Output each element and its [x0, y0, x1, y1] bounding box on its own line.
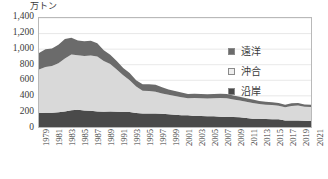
legend-label-distant-water: 遠洋 — [241, 46, 261, 57]
x-axis-tick-2001: 2001 — [185, 129, 194, 146]
x-axis-tick-1987: 1987 — [94, 129, 103, 146]
x-axis-tick-1993: 1993 — [133, 129, 142, 146]
x-axis-tick-1989: 1989 — [107, 129, 116, 146]
legend-item-coastal: 沿岸 — [228, 81, 304, 101]
x-axis-tick-2009: 2009 — [237, 129, 246, 146]
x-axis-tick-1979: 1979 — [42, 129, 51, 146]
x-axis-tick-1983: 1983 — [68, 129, 77, 146]
legend-item-offshore: 沖合 — [228, 61, 304, 81]
legend-swatch-distant-water — [228, 48, 235, 55]
fishery-production-area-chart: 万トン 02004006008001,0001,2001,400 1979198… — [0, 0, 328, 179]
legend-label-coastal: 沿岸 — [241, 86, 261, 97]
y-axis-tick-1400: 1,400 — [13, 12, 34, 22]
legend-swatch-offshore — [228, 68, 235, 75]
x-axis-tick-2003: 2003 — [198, 129, 207, 146]
y-axis-tick-0: 0 — [29, 123, 34, 133]
x-axis-tick-2013: 2013 — [263, 129, 272, 146]
legend-label-offshore: 沖合 — [241, 66, 261, 77]
chart-legend: 遠洋 沖合 沿岸 — [228, 41, 304, 101]
y-axis-tick-1000: 1,000 — [13, 44, 34, 54]
x-axis-tick-1999: 1999 — [172, 129, 181, 146]
x-axis-tick-2019: 2019 — [302, 129, 311, 146]
x-axis-tick-2017: 2017 — [289, 129, 298, 146]
x-axis-tick-2021: 2021 — [316, 129, 325, 146]
x-axis-tick-1981: 1981 — [55, 129, 64, 146]
y-axis-tick-1200: 1,200 — [13, 28, 34, 38]
x-axis-tick-2011: 2011 — [250, 129, 259, 146]
y-axis-tick-600: 600 — [20, 75, 34, 85]
x-axis-tick-labels: 1979198119831985198719891991199319951997… — [38, 129, 312, 179]
legend-item-distant-water: 遠洋 — [228, 41, 304, 61]
y-axis-tick-200: 200 — [20, 107, 34, 117]
y-axis-tick-labels: 02004006008001,0001,2001,400 — [0, 0, 34, 179]
x-axis-tick-2015: 2015 — [276, 129, 285, 146]
y-axis-unit-label: 万トン — [30, 1, 57, 11]
x-axis-tick-1997: 1997 — [159, 129, 168, 146]
x-axis-tick-1991: 1991 — [120, 129, 129, 146]
x-axis-tick-2005: 2005 — [211, 129, 220, 146]
x-axis-tick-1995: 1995 — [146, 129, 155, 146]
y-axis-tick-400: 400 — [20, 91, 34, 101]
y-axis-tick-800: 800 — [20, 60, 34, 70]
x-axis-tick-1985: 1985 — [81, 129, 90, 146]
legend-swatch-coastal — [228, 88, 235, 95]
x-axis-tick-2007: 2007 — [224, 129, 233, 146]
